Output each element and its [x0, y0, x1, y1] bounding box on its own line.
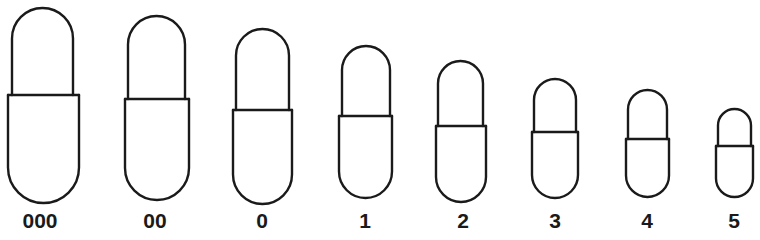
size-label-4: 4 [641, 210, 653, 232]
capsule-cap-shell [534, 79, 576, 132]
capsule-cap-shell [342, 46, 390, 116]
capsule-3 [532, 79, 578, 198]
capsule-body-shell [125, 99, 189, 200]
size-label-000: 000 [22, 210, 57, 232]
capsule-00 [125, 16, 189, 200]
capsule-4 [626, 90, 669, 197]
size-label-1: 1 [359, 210, 371, 232]
capsule-cap-shell [628, 90, 667, 139]
capsule-body-shell [716, 146, 753, 197]
size-label-0: 0 [256, 210, 268, 232]
capsule-body-shell [532, 132, 578, 198]
capsule-cap-shell [236, 29, 289, 110]
capsule-1 [339, 46, 392, 198]
capsule-cap-shell [128, 16, 185, 99]
capsule-2 [436, 61, 486, 202]
capsule-cap-shell [438, 61, 483, 126]
capsule-body-shell [8, 95, 79, 203]
capsule-5 [716, 109, 753, 197]
capsule-body-shell [233, 110, 292, 204]
size-label-00: 00 [143, 210, 166, 232]
size-label-5: 5 [728, 210, 740, 232]
capsule-cap-shell [718, 109, 751, 146]
capsule-body-shell [626, 139, 669, 197]
capsule-body-shell [436, 126, 486, 202]
capsule-cap-shell [12, 8, 73, 95]
capsule-0 [233, 29, 292, 204]
capsule-000 [8, 8, 79, 203]
capsule-size-diagram [0, 0, 760, 240]
size-label-3: 3 [549, 210, 561, 232]
capsule-body-shell [339, 116, 392, 198]
size-label-2: 2 [457, 210, 469, 232]
